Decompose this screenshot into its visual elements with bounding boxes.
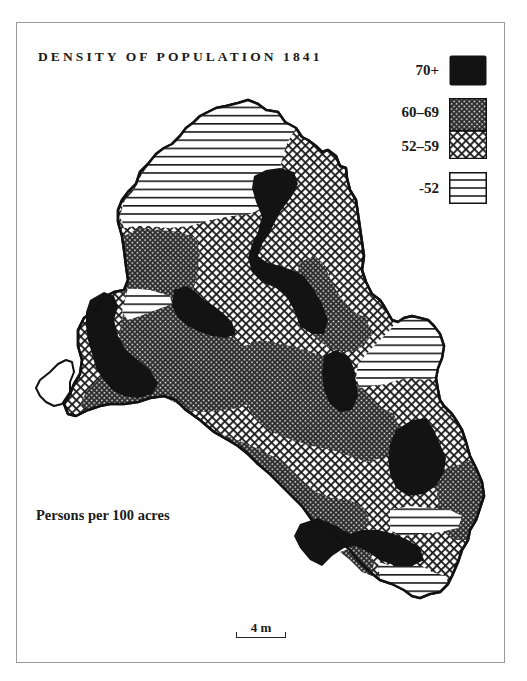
scale-bar-line xyxy=(236,632,286,638)
legend-swatch-70plus xyxy=(449,55,487,86)
legend-swatch-52-59 xyxy=(449,131,487,159)
legend-label-60-69: 60–69 xyxy=(359,104,439,121)
legend-label-52-59: 52–59 xyxy=(359,138,439,155)
units-label: Persons per 100 acres xyxy=(36,507,170,524)
legend-swatch-under52 xyxy=(449,172,487,204)
choropleth-map xyxy=(0,0,527,681)
legend-label-under52: -52 xyxy=(359,180,439,197)
legend-swatch-60-69 xyxy=(449,98,487,131)
legend-label-70plus: 70+ xyxy=(359,62,439,79)
map-title: DENSITY OF POPULATION 1841 xyxy=(38,49,323,65)
scale-bar: 4 m xyxy=(236,620,286,640)
